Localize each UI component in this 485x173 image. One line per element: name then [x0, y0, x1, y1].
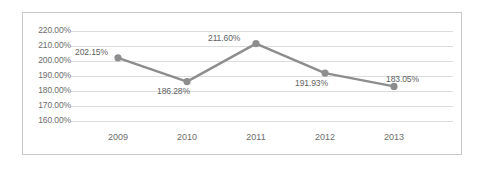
series-line	[118, 44, 394, 87]
x-axis-tick-label: 2011	[226, 132, 286, 143]
data-point-marker	[321, 70, 328, 77]
x-axis-tick-label: 2012	[295, 132, 355, 143]
x-axis-tick-label: 2010	[157, 132, 217, 143]
data-point-marker	[252, 40, 259, 47]
data-point-label: 211.60%	[208, 34, 240, 43]
data-point-label: 202.15%	[75, 48, 108, 57]
data-point-marker	[183, 78, 190, 85]
x-axis-tick-label: 2013	[364, 132, 424, 143]
data-point-label: 191.93%	[295, 79, 328, 88]
chart-container: 220.00% 210.00% 200.00% 190.00% 180.00% …	[22, 12, 462, 155]
data-point-label: 186.28%	[157, 87, 190, 96]
plot-area: 220.00% 210.00% 200.00% 190.00% 180.00% …	[23, 13, 463, 156]
data-point-label: 183.05%	[386, 75, 419, 84]
data-point-marker	[114, 54, 121, 61]
x-axis-tick-label: 2009	[88, 132, 148, 143]
